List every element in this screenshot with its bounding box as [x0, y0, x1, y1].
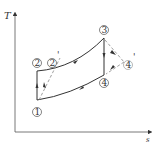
y-axis-label: T [4, 10, 12, 21]
svg-text:1: 1 [35, 107, 41, 117]
process-3-4prime [105, 40, 124, 62]
point-1: 1 [33, 107, 42, 117]
svg-text:4: 4 [126, 60, 132, 70]
ts-diagram: T s 1 2 2 ' 3 4 4 ' [0, 0, 154, 149]
svg-text:2: 2 [35, 58, 41, 68]
arrow-3-4-icon [103, 53, 106, 58]
svg-text:': ' [57, 50, 59, 60]
x-axis-label: s [146, 136, 150, 144]
process-4-1 [37, 75, 104, 100]
svg-text:': ' [133, 52, 135, 62]
arrow-4prime-4-icon [110, 65, 115, 70]
arrow-1-2-icon [36, 83, 39, 88]
point-3: 3 [100, 25, 109, 35]
point-2: 2 [33, 58, 42, 68]
point-2prime: 2 ' [48, 50, 60, 68]
svg-text:2: 2 [50, 58, 56, 68]
arrow-1-2prime-icon [43, 82, 46, 88]
point-4: 4 [100, 78, 109, 88]
svg-text:3: 3 [102, 25, 108, 35]
point-4prime: 4 ' [124, 52, 136, 70]
process-2-3 [37, 38, 104, 71]
process-4prime-4 [106, 62, 124, 74]
arrow-3-4prime-icon [110, 50, 116, 55]
svg-text:4: 4 [102, 78, 108, 88]
